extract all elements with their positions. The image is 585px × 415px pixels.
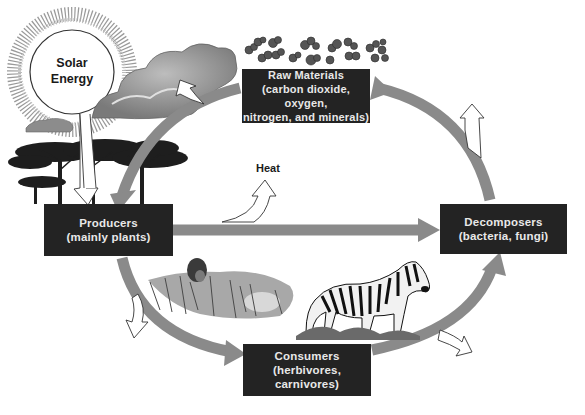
nutrient-cycle-arrows	[122, 88, 492, 352]
raw-materials-node: Raw Materials (carbon dioxide, oxygen, n…	[242, 69, 370, 123]
raw-materials-detail-1: (carbon dioxide, oxygen,	[242, 82, 370, 110]
heat-arrow-consumers	[438, 330, 472, 356]
acacia-trees-icon	[8, 139, 188, 204]
molecules-icon	[245, 37, 389, 66]
decomposers-node: Decomposers (bacteria, fungi)	[440, 204, 567, 254]
producers-node: Producers (mainly plants)	[44, 204, 173, 256]
sun-label-line1: Solar	[42, 55, 102, 71]
decomposers-detail: (bacteria, fungi)	[459, 229, 549, 243]
ecosystem-diagram: Solar Energy Heat Raw Materials (carbon …	[0, 0, 585, 415]
decomposers-title: Decomposers	[464, 215, 542, 229]
lions-icon	[148, 258, 293, 319]
producers-title: Producers	[79, 216, 138, 230]
consumers-title: Consumers	[274, 349, 339, 363]
raw-materials-title: Raw Materials	[268, 68, 344, 82]
sun-label-line2: Energy	[42, 71, 102, 87]
producers-detail: (mainly plants)	[66, 230, 150, 244]
heat-label: Heat	[256, 162, 280, 174]
zebra-icon	[296, 262, 430, 340]
raw-materials-detail-2: nitrogen, and minerals)	[243, 110, 369, 124]
sun-label: Solar Energy	[42, 55, 102, 87]
heat-arrow-producers	[222, 180, 276, 222]
consumers-node: Consumers (herbivores, carnivores)	[243, 344, 371, 396]
consumers-detail: (herbivores, carnivores)	[243, 363, 371, 391]
